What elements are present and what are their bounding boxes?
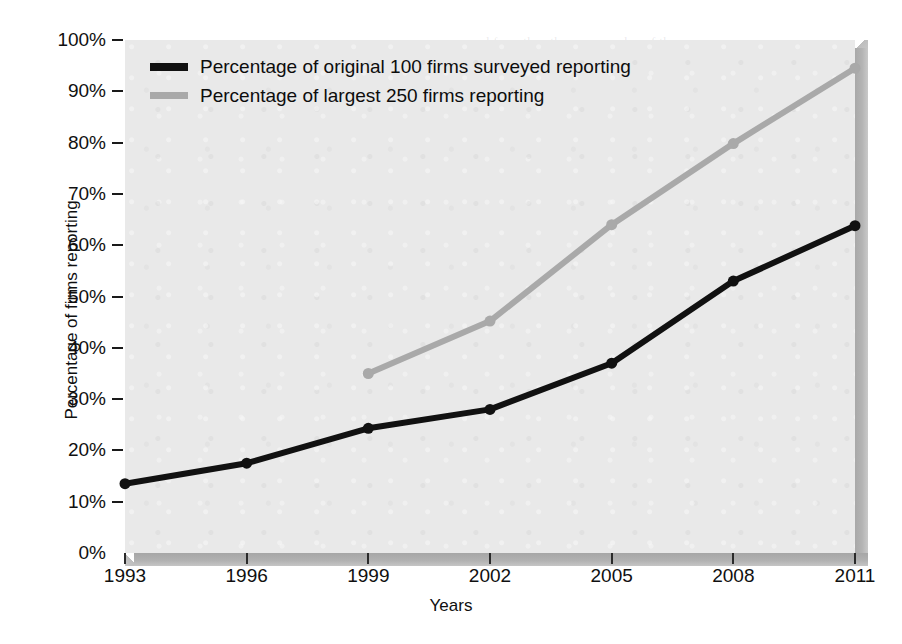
y-axis-tick	[112, 90, 123, 92]
x-axis-tick-label: 1993	[104, 565, 146, 587]
data-point-marker	[850, 63, 861, 74]
series-line	[125, 226, 855, 484]
data-point-marker	[241, 458, 252, 469]
legend-label: Percentage of largest 250 firms reportin…	[200, 85, 544, 107]
x-axis-tick	[367, 553, 369, 564]
x-axis-tick-label: 1996	[226, 565, 268, 587]
chart-legend: Percentage of original 100 firms surveye…	[150, 52, 631, 110]
legend-swatch-gray-line-icon	[150, 92, 188, 99]
data-point-marker	[363, 368, 374, 379]
data-point-marker	[728, 276, 739, 287]
x-axis-tick	[611, 553, 613, 564]
data-point-marker	[485, 316, 496, 327]
data-point-marker	[850, 220, 861, 231]
y-axis-tick	[112, 142, 123, 144]
x-axis-tick	[124, 553, 126, 564]
x-axis-tick	[854, 553, 856, 564]
y-axis-tick	[112, 193, 123, 195]
x-axis-tick-label: 2011	[835, 565, 876, 587]
chart-page: and from the other way a value of the of…	[0, 0, 902, 644]
y-axis-tick	[112, 244, 123, 246]
x-axis-tick	[489, 553, 491, 564]
x-axis-tick-label: 2008	[712, 565, 754, 587]
x-axis-tick-label: 2005	[591, 565, 633, 587]
y-axis-tick	[112, 296, 123, 298]
y-axis-tick	[112, 39, 123, 41]
x-axis-tick-label: 1999	[347, 565, 389, 587]
y-axis-tick	[112, 449, 123, 451]
y-axis-tick	[112, 347, 123, 349]
legend-label: Percentage of original 100 firms surveye…	[200, 56, 631, 78]
data-point-marker	[485, 404, 496, 415]
x-axis-title: Years	[0, 596, 902, 616]
y-axis-tick	[112, 398, 123, 400]
data-point-marker	[120, 478, 131, 489]
x-axis-tick	[732, 553, 734, 564]
data-point-marker	[606, 219, 617, 230]
x-axis-tick-label: 2002	[469, 565, 511, 587]
legend-swatch-black-line-icon	[150, 63, 188, 71]
data-point-marker	[363, 423, 374, 434]
y-axis-tick	[112, 501, 123, 503]
data-point-marker	[728, 138, 739, 149]
legend-item-largest-250: Percentage of largest 250 firms reportin…	[150, 81, 631, 110]
y-axis-title-holder: Percentage of firms reporting	[32, 0, 33, 1]
y-axis-title: Percentage of firms reporting	[62, 160, 82, 460]
x-axis-tick	[246, 553, 248, 564]
legend-item-original-100: Percentage of original 100 firms surveye…	[150, 52, 631, 81]
data-point-marker	[606, 358, 617, 369]
line-chart-figure: 0%10%20%30%40%50%60%70%80%90%100% Percen…	[0, 0, 902, 644]
